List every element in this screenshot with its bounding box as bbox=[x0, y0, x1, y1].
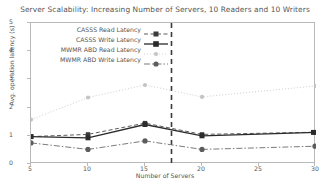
x-tick-label-25: 25 bbox=[246, 165, 270, 172]
x-axis-label: Number of Servers bbox=[0, 172, 330, 179]
x-tick-label-5: 5 bbox=[18, 165, 42, 172]
legend-swatch-mwmr-abd-write bbox=[144, 59, 168, 69]
x-tick-label-10: 10 bbox=[75, 165, 99, 172]
legend-label-mwmr-abd-write: MWMR ABD Write Latency bbox=[46, 56, 144, 63]
series-line-mwmr-abd-read bbox=[31, 85, 316, 120]
x-tick-label-30: 30 bbox=[303, 165, 327, 172]
series-line-mwmr-abd-write bbox=[31, 141, 316, 150]
legend-item-mwmr-abd-read: MWMR ABD Read Latency bbox=[46, 44, 168, 54]
legend-label-mwmr-abd-read: MWMR ABD Read Latency bbox=[46, 46, 144, 53]
series-markers-mwmr-abd-read bbox=[31, 83, 316, 122]
legend-label-casss-write: CASSS Write Latency bbox=[46, 36, 144, 43]
y-tick-label-0: 0 bbox=[0, 160, 13, 166]
legend-label-casss-read: CASSS Read Latency bbox=[46, 26, 144, 33]
y-tick-label-1: 1 bbox=[0, 132, 13, 138]
x-tick-label-15: 15 bbox=[132, 165, 156, 172]
series-line-casss-write bbox=[31, 125, 316, 138]
chart-legend: CASSS Read Latency CASSS Write Latency M… bbox=[46, 24, 168, 64]
chart-title: Server Scalability: Increasing Number of… bbox=[0, 5, 330, 14]
y-axis-label: Avg. operation latency (s) bbox=[8, 6, 15, 126]
legend-item-casss-write: CASSS Write Latency bbox=[46, 34, 168, 44]
legend-item-casss-read: CASSS Read Latency bbox=[46, 24, 168, 34]
legend-key-mwmr-abd-write bbox=[144, 54, 168, 64]
x-tick-label-20: 20 bbox=[189, 165, 213, 172]
legend-item-mwmr-abd-write: MWMR ABD Write Latency bbox=[46, 54, 168, 64]
chart-figure: Server Scalability: Increasing Number of… bbox=[0, 0, 330, 186]
legend-key-casss-read bbox=[144, 24, 168, 34]
legend-key-casss-write bbox=[144, 34, 168, 44]
legend-key-mwmr-abd-read bbox=[144, 44, 168, 54]
